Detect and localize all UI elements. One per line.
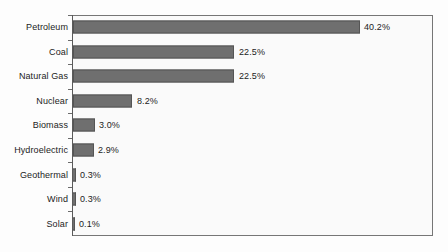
bar-chart: Petroleum 40.2% Coal 22.5% Natural Gas 2… [0, 0, 448, 252]
category-label: Natural Gas [19, 71, 68, 82]
value-label: 22.5% [239, 71, 265, 82]
bar [73, 70, 234, 83]
bar [73, 119, 95, 132]
chart-row: Geothermal 0.3% [0, 162, 448, 187]
chart-row: Natural Gas 22.5% [0, 64, 448, 89]
category-label: Geothermal [20, 169, 68, 180]
axis-tick [68, 113, 72, 114]
value-label: 8.2% [137, 95, 158, 106]
value-label: 0.3% [80, 194, 101, 205]
value-label: 22.5% [239, 46, 265, 57]
axis-tick [68, 64, 72, 65]
chart-row: Wind 0.3% [0, 187, 448, 212]
bar [73, 21, 360, 34]
chart-row: Hydroelectric 2.9% [0, 138, 448, 163]
category-label: Hydroelectric [14, 145, 68, 156]
category-label: Coal [49, 46, 68, 57]
bar [73, 217, 75, 230]
category-label: Solar [46, 218, 68, 229]
chart-row: Coal 22.5% [0, 40, 448, 65]
axis-tick [68, 211, 72, 212]
value-label: 3.0% [99, 120, 120, 131]
axis-tick [68, 40, 72, 41]
axis-tick [68, 15, 72, 16]
chart-row: Solar 0.1% [0, 211, 448, 236]
bar [73, 144, 94, 157]
axis-tick [68, 89, 72, 90]
value-label: 0.3% [80, 169, 101, 180]
value-label: 2.9% [98, 145, 119, 156]
category-label: Wind [47, 194, 68, 205]
value-label: 40.2% [364, 22, 390, 33]
value-label: 0.1% [79, 218, 100, 229]
category-label: Nuclear [36, 95, 68, 106]
category-label: Petroleum [26, 22, 68, 33]
category-label: Biomass [33, 120, 68, 131]
bar [73, 168, 76, 181]
bar [73, 45, 234, 58]
axis-tick [68, 187, 72, 188]
bar [73, 94, 132, 107]
axis-tick [68, 138, 72, 139]
chart-row: Biomass 3.0% [0, 113, 448, 138]
bar [73, 193, 76, 206]
chart-row: Petroleum 40.2% [0, 15, 448, 40]
chart-row: Nuclear 8.2% [0, 89, 448, 114]
axis-tick [68, 162, 72, 163]
